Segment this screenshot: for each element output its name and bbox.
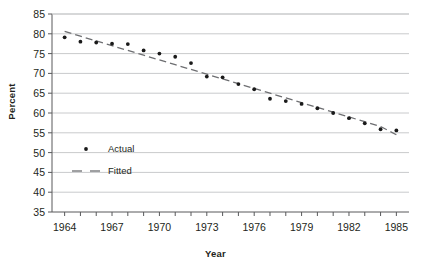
data-point (79, 40, 83, 44)
data-point (363, 121, 367, 125)
data-point (126, 42, 130, 46)
data-point (94, 41, 98, 45)
y-tick-label: 75 (33, 48, 45, 60)
x-tick-label: 1970 (148, 221, 172, 233)
data-point (221, 75, 225, 79)
y-tick-label: 60 (33, 107, 45, 119)
data-point (158, 52, 162, 56)
y-tick-label: 35 (33, 206, 45, 218)
data-point (268, 97, 272, 101)
data-point (284, 99, 288, 103)
legend-marker-actual (84, 147, 88, 151)
legend-label-actual: Actual (108, 143, 134, 154)
data-point (63, 35, 67, 39)
fitted-line-series (65, 31, 397, 134)
y-axis-tick-labels: 3540455055606570758085 (33, 8, 45, 218)
chart-container: Percent Year 3540455055606570758085 1964… (0, 0, 431, 269)
x-tick-label: 1964 (53, 221, 77, 233)
y-tick-label: 40 (33, 186, 45, 198)
actual-points-series (63, 35, 399, 132)
y-tick-label: 70 (33, 67, 45, 79)
data-point (347, 116, 351, 120)
data-point (236, 82, 240, 86)
data-point (142, 49, 146, 53)
plot-svg: 3540455055606570758085 19641967197019731… (0, 0, 431, 269)
y-tick-label: 80 (33, 28, 45, 40)
y-axis-title: Percent (6, 72, 17, 132)
x-axis-tick-labels: 19641967197019731976197919821985 (53, 221, 408, 233)
data-point (315, 106, 319, 110)
chart-legend: ActualFitted (72, 143, 134, 176)
x-tick-label: 1979 (290, 221, 314, 233)
data-point (205, 75, 209, 79)
data-point (379, 127, 383, 131)
data-point (300, 102, 304, 106)
fitted-line (65, 31, 397, 134)
data-point (252, 87, 256, 91)
x-axis-title: Year (0, 248, 431, 259)
y-tick-label: 50 (33, 147, 45, 159)
data-point (110, 42, 114, 46)
y-axis-ticks (48, 14, 52, 212)
y-tick-label: 85 (33, 8, 45, 20)
data-point (189, 61, 193, 65)
y-tick-label: 55 (33, 127, 45, 139)
x-tick-label: 1967 (100, 221, 124, 233)
x-tick-label: 1982 (337, 221, 361, 233)
x-tick-label: 1985 (385, 221, 409, 233)
data-point (331, 111, 335, 115)
gridlines (52, 14, 409, 192)
x-axis-ticks (65, 212, 397, 216)
data-point (394, 129, 398, 133)
y-tick-label: 45 (33, 166, 45, 178)
legend-label-fitted: Fitted (108, 165, 132, 176)
data-point (173, 55, 177, 59)
y-tick-label: 65 (33, 87, 45, 99)
x-tick-label: 1976 (243, 221, 267, 233)
x-tick-label: 1973 (195, 221, 219, 233)
